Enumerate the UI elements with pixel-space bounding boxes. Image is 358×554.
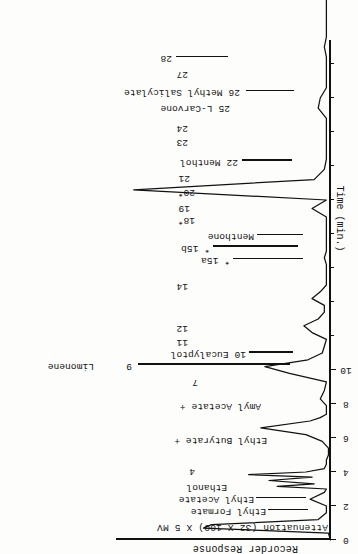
peak-label-l-carvone: 25 L-Carvone [160, 103, 230, 114]
peak-label-24: 24 [176, 123, 188, 134]
peak-label-menthol: 22 Menthol [180, 157, 238, 168]
chromatogram-trace [0, 0, 358, 554]
peak-label-methyl-salicylate: 26 Methyl Salicylate [124, 87, 240, 98]
peak-label-15b: * 15b [181, 243, 210, 254]
peak-label-menthone: Menthone [208, 231, 254, 242]
rotated-page-content: Recorder Response Attenuation (32 X 100)… [0, 0, 358, 554]
peak-label-23: 23 [176, 137, 188, 148]
peak-label-amyl-acetate: Amyl Acetate + [180, 401, 261, 412]
leader-28 [176, 56, 228, 57]
leader-15a [233, 258, 303, 259]
chromatogram-figure: Recorder Response Attenuation (32 X 100)… [0, 0, 358, 554]
peak-label-11: 11 [176, 337, 188, 348]
peak-label-7: 7 [192, 377, 198, 388]
peak-label-4: 4 [189, 466, 195, 477]
peak-label-27: 27 [176, 69, 188, 80]
leader-15b [213, 245, 298, 247]
leader-menthol [242, 159, 292, 161]
peak-label-9: 9 [126, 361, 132, 372]
peak-label-ethyl-acetate: Ethyl Acetate [179, 494, 254, 505]
peak-label-19: 19 [178, 203, 190, 214]
peak-label-limonene: Limonene [48, 361, 94, 372]
peak-label-28: 28 [160, 53, 172, 64]
leader-menthone [257, 234, 303, 235]
peak-label-ethanol: Ethanol [186, 482, 227, 493]
leader-ethyl-acetate [256, 497, 306, 498]
leader-ethyl-formate [268, 509, 308, 510]
peak-label-15a: * 15a [201, 255, 230, 266]
peak-label-18: 18* [178, 215, 195, 226]
peak-label-14: 14 [176, 281, 188, 292]
peak-label-eucalyptol: 10 Eucalyptol [171, 349, 246, 360]
peak-label-20: 20* [178, 187, 195, 198]
leader-eucalyptol [249, 351, 293, 353]
peak-label-ethyl-butyrate: Ethyl Butyrate + [174, 435, 267, 446]
leader-limonene [138, 363, 290, 365]
leader-methyl-salicylate [246, 90, 294, 91]
peak-label-21: 21 [178, 173, 190, 184]
peak-label-ethyl-formate: Ethyl Formate [191, 506, 266, 517]
peak-label-12: 12 [176, 323, 188, 334]
